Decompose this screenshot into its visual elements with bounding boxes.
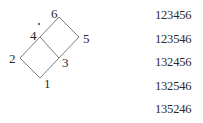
vertex-label-3: 3 [62,55,69,70]
linear-extensions-list: 123456 123546 132456 132546 135246 [155,6,191,123]
sequence-item: 132456 [155,53,191,77]
poset-diagram: 123456 [0,0,120,123]
marker-dot [38,23,40,25]
edge-3-4 [40,37,59,58]
sequence-item: 135246 [155,100,191,123]
vertex-label-5: 5 [83,31,90,46]
edge-5-6 [59,17,79,37]
vertex-labels: 123456 [9,6,90,91]
diagram-edges [20,17,79,78]
edge-1-2 [20,58,40,78]
sequence-item: 123546 [155,30,191,54]
vertex-label-6: 6 [51,6,58,21]
vertex-label-1: 1 [44,76,51,91]
vertex-label-2: 2 [9,51,16,66]
edge-1-3 [40,58,59,78]
vertex-label-4: 4 [30,28,37,43]
sequence-item: 132546 [155,77,191,101]
sequence-item: 123456 [155,6,191,30]
